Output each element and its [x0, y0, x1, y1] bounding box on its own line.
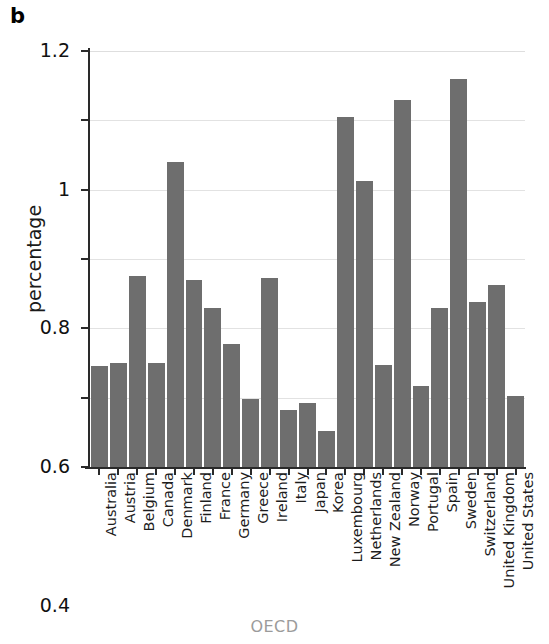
y-tick-mark: 0.6 [81, 258, 88, 260]
x-tick-label: Canada [161, 472, 176, 527]
bar-slot [185, 51, 204, 467]
bar[interactable] [299, 403, 316, 467]
x-tick-label: Finland [199, 472, 214, 524]
x-tick-label: Norway [407, 472, 422, 527]
bar-slot [506, 51, 525, 467]
bar[interactable] [242, 399, 259, 467]
bar-slot [260, 51, 279, 467]
x-tick-label: Spain [445, 472, 460, 513]
y-tick-label: 0.6 [40, 455, 70, 477]
x-tick-label: Netherlands [369, 472, 384, 560]
x-tick-label: Australia [104, 472, 119, 536]
bar-slot [109, 51, 128, 467]
bar[interactable] [488, 285, 505, 467]
x-tick-label: Austria [123, 472, 138, 523]
y-tick-mark: 0.8 [81, 189, 88, 191]
bar[interactable] [186, 280, 203, 467]
bar[interactable] [261, 278, 278, 467]
bar[interactable] [280, 410, 297, 467]
bar-slot [430, 51, 449, 467]
bar-slot [128, 51, 147, 467]
y-tick-label: 1.2 [40, 39, 70, 61]
bar[interactable] [91, 366, 108, 467]
x-axis-title: OECD [0, 617, 549, 636]
x-tick-label: Portugal [426, 472, 441, 532]
x-axis-category-labels: AustraliaAustriaBelgiumCanadaDenmarkFinl… [90, 472, 527, 597]
bar-slot [336, 51, 355, 467]
x-tick-label: Belgium [142, 472, 157, 531]
bar[interactable] [204, 308, 221, 467]
y-tick-mark: 1 [81, 119, 88, 121]
x-tick-label: Greece [256, 472, 271, 524]
bar[interactable] [507, 396, 524, 467]
x-tick-label: Sweden [464, 472, 479, 529]
bar-slot [90, 51, 109, 467]
bar-slot [147, 51, 166, 467]
x-tick-label: France [218, 472, 233, 520]
x-tick-label: Ireland [275, 472, 290, 522]
y-tick-mark: 0.2 [81, 397, 88, 399]
bar-slot [374, 51, 393, 467]
x-tick-label: United Kingdom [502, 472, 517, 588]
bar[interactable] [450, 79, 467, 467]
bar[interactable] [469, 302, 486, 467]
bar-slot [222, 51, 241, 467]
plot-area: 00.20.40.60.811.2 [88, 51, 525, 467]
bar-slot [298, 51, 317, 467]
bar-slot [166, 51, 185, 467]
x-tick-label: Luxembourg [350, 472, 365, 562]
y-tick-mark: 0 [81, 466, 88, 468]
figure-panel: b percentage 00.20.40.60.811.2 Australia… [0, 0, 549, 644]
x-tick-label: Germany [237, 472, 252, 539]
y-tick-mark: 1.2 [81, 50, 88, 52]
bar[interactable] [110, 363, 127, 467]
x-tick-label: Korea [331, 472, 346, 513]
panel-letter: b [10, 6, 25, 27]
bar[interactable] [394, 100, 411, 467]
x-tick-label: Switzerland [483, 472, 498, 557]
bar[interactable] [148, 363, 165, 467]
y-tick-label: 1 [58, 178, 70, 200]
bar[interactable] [413, 386, 430, 467]
bar[interactable] [431, 308, 448, 467]
bar[interactable] [337, 117, 354, 467]
x-axis-line [85, 467, 526, 469]
bar-slot [412, 51, 431, 467]
bar-slot [203, 51, 222, 467]
y-tick-mark: 0.4 [81, 327, 88, 329]
bar[interactable] [129, 276, 146, 467]
bar-slot [487, 51, 506, 467]
x-tick-label: Denmark [180, 472, 195, 539]
bar[interactable] [318, 431, 335, 467]
bar-slot [279, 51, 298, 467]
x-tick-label: United States [521, 472, 536, 570]
bar[interactable] [356, 181, 373, 467]
bar-series [90, 51, 525, 467]
bar[interactable] [375, 365, 392, 467]
bar-slot [241, 51, 260, 467]
y-tick-label: 0.8 [40, 316, 70, 338]
y-tick-label: 0.4 [40, 594, 70, 616]
x-tick-label: Japan [313, 472, 328, 512]
x-tick-label: New Zealand [388, 472, 403, 567]
bar-slot [355, 51, 374, 467]
bar-slot [317, 51, 336, 467]
bar[interactable] [167, 162, 184, 467]
bar-slot [393, 51, 412, 467]
x-tick-label: Italy [294, 472, 309, 503]
bar-slot [468, 51, 487, 467]
bar-slot [449, 51, 468, 467]
bar[interactable] [223, 344, 240, 467]
